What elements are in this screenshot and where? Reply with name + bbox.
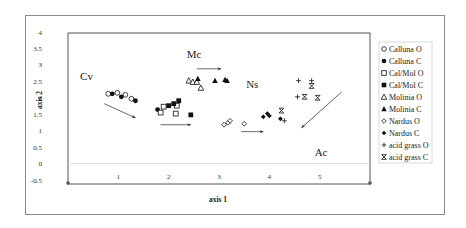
x-tick-label: 5 (318, 173, 322, 181)
data-point-cal-mol-c (176, 98, 181, 103)
data-point-acid-grass-o (282, 118, 287, 123)
data-point-molinia-c (212, 78, 218, 83)
region-label-ns: Ns (246, 78, 258, 90)
data-point-nardus-c (261, 114, 266, 119)
y-tick-label: 1.5 (33, 111, 42, 119)
trend-arrow (104, 104, 135, 118)
y-tick-label: 0 (39, 160, 43, 168)
region-label-mc: Mc (187, 48, 202, 60)
x-axis-label: axis 1 (209, 195, 227, 204)
data-point-acid-grass-o (296, 78, 301, 83)
legend-label: Molinia C (389, 105, 422, 114)
legend-label: Cal/Mol O (389, 69, 424, 78)
legend-label: Nardus C (389, 129, 419, 138)
data-point-acid-grass-o (309, 78, 314, 83)
x-axis-ticks: 12345 (117, 173, 322, 181)
x-tick-label: 3 (217, 173, 221, 181)
legend: Calluna OCalluna CCal/Mol OCal/Mol CMoli… (379, 42, 432, 163)
legend-marker (382, 47, 387, 52)
trend-arrows (104, 69, 342, 132)
legend-marker (382, 59, 387, 64)
x-tick-label: 4 (268, 173, 272, 181)
data-point-cal-mol-o (158, 110, 163, 115)
data-point-acid-grass-c (315, 95, 320, 100)
y-axis-label: axis 2 (35, 91, 44, 109)
x-tick-label: 2 (167, 173, 171, 181)
trend-arrow (302, 92, 342, 128)
data-point-calluna-c (110, 91, 115, 96)
legend-marker (382, 71, 387, 76)
legend-marker (382, 83, 387, 88)
legend-label: Calluna O (389, 45, 422, 54)
data-point-acid-grass-c (309, 84, 314, 89)
data-point-acid-grass-c (279, 108, 284, 113)
x-tick-label: 1 (117, 173, 121, 181)
y-tick-label: 3.5 (33, 45, 42, 53)
data-point-calluna-o (115, 90, 120, 95)
data-points (106, 76, 320, 127)
data-point-calluna-c (133, 98, 138, 103)
legend-label: Calluna C (389, 57, 421, 66)
data-point-acid-grass-o (295, 94, 300, 99)
data-point-molinia-o (198, 85, 204, 90)
plot-border (68, 33, 370, 184)
region-label-cv: Cv (80, 70, 93, 82)
y-tick-label: 4 (39, 29, 43, 37)
scatter-chart: -0.500.511.522.533.54 12345 axis 1 axis … (0, 0, 466, 228)
y-tick-label: 0.5 (33, 144, 42, 152)
plot-area (66, 33, 372, 185)
data-point-molinia-c (195, 76, 201, 81)
legend-label: Cal/Mol C (389, 81, 423, 90)
y-tick-label: 3 (39, 61, 43, 69)
y-tick-label: 2.5 (33, 78, 42, 86)
data-point-acid-grass-c (302, 94, 307, 99)
legend-label: acid grass C (389, 153, 428, 162)
region-label-ac: Ac (315, 146, 328, 158)
data-point-cal-mol-o (173, 111, 178, 116)
data-point-cal-mol-c (188, 112, 193, 117)
axis-end-marker (368, 181, 372, 185)
data-point-cal-mol-o (161, 104, 166, 109)
data-point-calluna-c (119, 94, 124, 99)
y-tick-label: -0.5 (31, 177, 43, 185)
region-labels: CvMcNsAc (80, 48, 327, 158)
data-point-nardus-o (242, 121, 247, 126)
data-point-cal-mol-c (166, 103, 171, 108)
data-point-cal-mol-c (171, 101, 176, 106)
legend-label: acid grass O (389, 141, 429, 150)
axis-end-marker (66, 181, 70, 185)
legend-label: Nardus O (389, 117, 420, 126)
y-tick-label: 1 (39, 127, 43, 135)
legend-label: Molinia O (389, 93, 422, 102)
